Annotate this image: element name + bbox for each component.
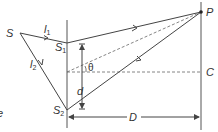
label-cut-text: e: [0, 107, 3, 119]
double-slit-diagram: S l1 l2 S1 S2 θ d D D P C e: [0, 0, 218, 132]
label-l1: l1: [44, 23, 50, 36]
label-s2: S2: [53, 104, 64, 117]
label-theta: θ: [88, 62, 94, 73]
label-l2: l2: [30, 58, 36, 71]
label-source: S: [6, 27, 14, 39]
ray-s2-p: [67, 12, 201, 110]
theta-arc: [85, 66, 86, 72]
ray-s1-p: [67, 12, 201, 43]
label-d: d: [77, 85, 84, 97]
point-p: [199, 10, 203, 14]
label-c: C: [206, 66, 214, 78]
label-D-text: D: [129, 111, 137, 123]
label-p: P: [206, 6, 214, 18]
